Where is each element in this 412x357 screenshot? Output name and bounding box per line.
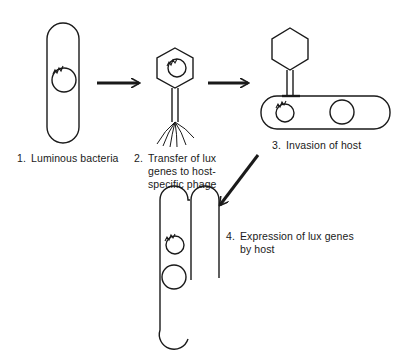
step-4-text-line-1: Expression of lux genes <box>240 230 354 242</box>
step-4-number: 4. <box>226 230 240 243</box>
step-1-label: 1.Luminous bacteria <box>17 152 119 165</box>
step-2-label: 2.Transfer of lux genes to host- specifi… <box>134 152 217 191</box>
step-2-number: 2. <box>134 152 148 165</box>
step-1-text: Luminous bacteria <box>31 152 119 164</box>
step-1-number: 1. <box>17 152 31 165</box>
step-2-text-line-1: Transfer of lux <box>148 152 216 164</box>
step-3-number: 3. <box>272 139 286 152</box>
lux-gene-transfer-diagram: 1.Luminous bacteria 2.Transfer of lux ge… <box>0 0 412 357</box>
step-3-label: 3.Invasion of host <box>272 139 361 152</box>
step-2-text-line-3: specific phage <box>134 178 217 191</box>
step-4-text-line-2: by host <box>226 243 354 256</box>
step-4-label: 4.Expression of lux genes by host <box>226 230 354 256</box>
step-3-text: Invasion of host <box>286 139 361 151</box>
step-2-text-line-2: genes to host- <box>134 165 217 178</box>
